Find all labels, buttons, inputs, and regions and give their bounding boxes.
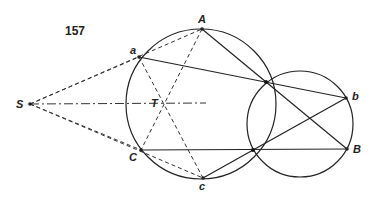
point-S bbox=[28, 102, 32, 106]
dashed-line-S-a bbox=[30, 57, 139, 104]
solid-line-A-B bbox=[202, 29, 347, 149]
point-C bbox=[139, 148, 143, 152]
label-c: c bbox=[199, 180, 205, 192]
solid-line-C-B bbox=[141, 149, 347, 150]
label-B: B bbox=[353, 143, 361, 155]
point-A bbox=[200, 27, 204, 31]
dashed-line-S-c bbox=[30, 104, 203, 178]
label-A: A bbox=[197, 13, 206, 25]
label-S: S bbox=[16, 98, 24, 110]
geometry-diagram: 157 S T A a C c b B bbox=[0, 0, 379, 200]
label-b: b bbox=[352, 90, 359, 102]
figure-number: 157 bbox=[65, 24, 85, 38]
diagram-svg: 157 S T A a C c b B bbox=[0, 0, 379, 200]
label-a: a bbox=[130, 44, 136, 56]
point-P bbox=[264, 80, 268, 84]
label-C: C bbox=[129, 151, 138, 163]
point-a bbox=[137, 55, 141, 59]
large-circle bbox=[126, 29, 276, 179]
point-B bbox=[345, 147, 349, 151]
axis-line-S-T bbox=[30, 103, 206, 104]
dashed-line-A-C bbox=[141, 29, 202, 150]
solid-line-c-b bbox=[203, 98, 346, 178]
dashed-line-S-C bbox=[30, 104, 141, 150]
point-Q bbox=[251, 148, 255, 152]
point-b bbox=[344, 96, 348, 100]
dashed-line-a-c bbox=[139, 57, 203, 178]
